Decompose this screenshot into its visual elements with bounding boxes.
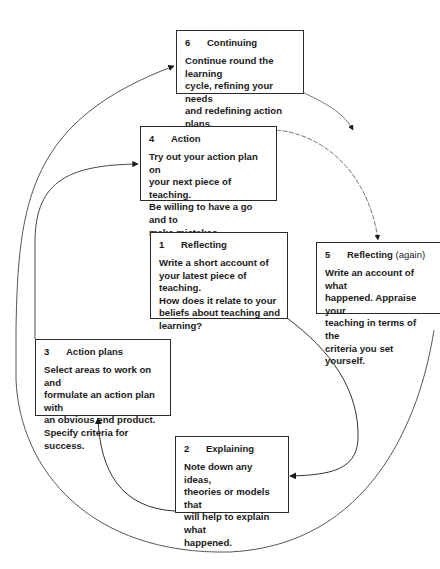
stage-number: 4 — [149, 133, 171, 144]
stage-2-explaining-box: 2Explaining Note down any ideas, theorie… — [175, 436, 289, 513]
stage-title: Reflecting — [347, 249, 393, 260]
stage-text: Note down any ideas, theories or models … — [184, 461, 281, 549]
arrow-3-to-4 — [35, 164, 138, 339]
stage-title: Explaining — [206, 443, 254, 454]
stage-number: 5 — [325, 249, 347, 260]
stage-text: Select areas to work on and formulate an… — [44, 364, 163, 452]
stage-text: Write an account of what happened. Appra… — [325, 267, 433, 368]
stage-number: 2 — [184, 443, 206, 454]
stage-number: 6 — [185, 37, 207, 48]
stage-number: 3 — [44, 346, 66, 357]
stage-3-action-plans-box: 3Action plans Select areas to work on an… — [35, 339, 171, 416]
stage-title: Continuing — [207, 37, 257, 48]
stage-text: Try out your action plan on your next pi… — [149, 151, 269, 239]
stage-6-continuing-box: 6Continuing Continue round the learning … — [176, 30, 304, 94]
stage-number: 1 — [159, 239, 181, 250]
arrow-4-to-5 — [276, 130, 378, 240]
stage-title: Action — [171, 133, 201, 144]
arrow-6-continue — [304, 93, 353, 130]
stage-5-reflecting-again-box: 5Reflecting (again) Write an account of … — [316, 242, 440, 314]
stage-title: Action plans — [66, 346, 123, 357]
stage-4-action-box: 4Action Try out your action plan on your… — [140, 126, 277, 201]
stage-title: Reflecting — [181, 239, 227, 250]
stage-1-reflecting-box: 1Reflecting Write a short account of you… — [150, 232, 288, 319]
stage-text: Write a short account of your latest pie… — [159, 257, 280, 333]
stage-text: Continue round the learning cycle, refin… — [185, 55, 296, 131]
stage-title-suffix: (again) — [396, 249, 426, 260]
